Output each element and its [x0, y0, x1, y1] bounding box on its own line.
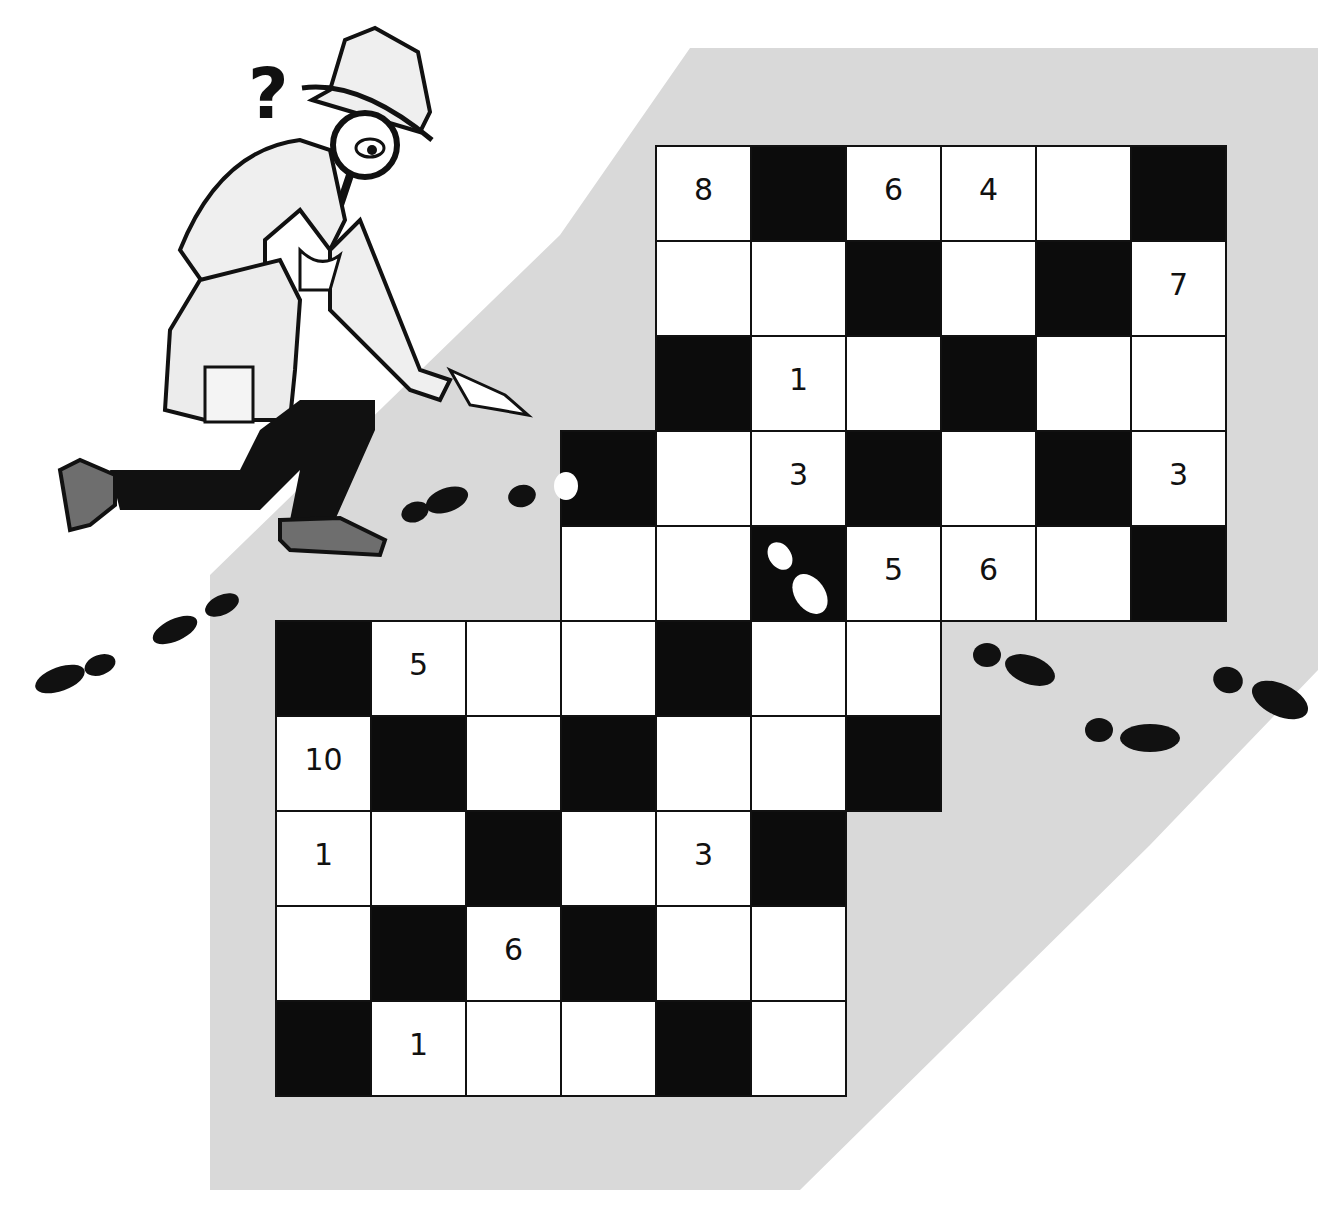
- puzzle-stage: 8647133565101361 ?: [0, 0, 1343, 1214]
- white-footprint-icon: [554, 472, 578, 500]
- question-mark-icon: ?: [248, 53, 289, 135]
- svg-text:?: ?: [248, 53, 289, 135]
- footprints-icon: [31, 481, 1313, 752]
- detective-illustration: ?: [0, 0, 1343, 1214]
